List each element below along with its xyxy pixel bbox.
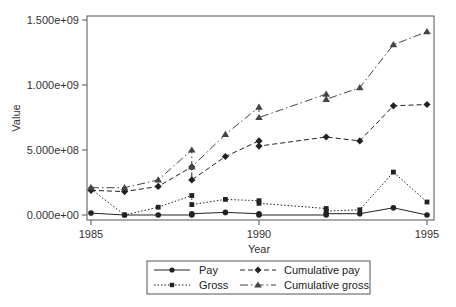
circle-marker-icon (189, 211, 195, 217)
circle-marker-icon (223, 210, 229, 216)
square-marker-icon (357, 207, 362, 212)
y-axis-title: Value (10, 104, 22, 131)
x-tick-label: 1995 (415, 228, 439, 240)
x-tick-label: 1985 (79, 228, 103, 240)
y-tick-label: 0.000e+00 (27, 209, 79, 221)
square-marker-icon (156, 205, 161, 210)
circle-marker-icon (169, 267, 174, 272)
x-axis: 1985 1990 1995 Year (79, 220, 439, 255)
circle-marker-icon (424, 212, 430, 218)
square-marker-icon (189, 202, 194, 207)
legend-label-gross: Gross (199, 279, 229, 291)
legend-label-cumulative-gross: Cumulative gross (284, 279, 369, 291)
x-axis-title: Year (248, 243, 271, 255)
circle-marker-icon (391, 205, 397, 211)
square-marker-icon (257, 201, 262, 206)
square-marker-icon (391, 170, 396, 175)
square-marker-icon (425, 200, 430, 205)
x-tick-label: 1990 (247, 228, 271, 240)
legend-label-pay: Pay (199, 264, 218, 276)
square-marker-icon (170, 283, 174, 287)
circle-marker-icon (256, 212, 262, 218)
y-tick-label: 1.000e+09 (27, 79, 79, 91)
square-marker-icon (324, 209, 329, 214)
square-marker-icon (189, 193, 194, 198)
circle-marker-icon (88, 210, 94, 216)
square-marker-icon (122, 213, 127, 218)
legend: Pay Cumulative pay Gross Cumulative gros… (147, 261, 370, 294)
line-chart: 0.000e+00 5.000e+08 1.000e+09 1.500e+09 … (0, 0, 456, 307)
y-axis: 0.000e+00 5.000e+08 1.000e+09 1.500e+09 … (10, 14, 87, 221)
square-marker-icon (223, 197, 228, 202)
circle-marker-icon (155, 212, 161, 218)
legend-label-cumulative-pay: Cumulative pay (284, 264, 360, 276)
y-tick-label: 1.500e+09 (27, 14, 79, 26)
y-tick-label: 5.000e+08 (27, 144, 79, 156)
